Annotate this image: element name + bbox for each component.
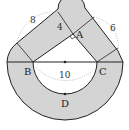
point-d-dot <box>64 93 67 96</box>
label-c: C <box>99 66 107 77</box>
length-bc: 10 <box>59 70 71 80</box>
label-d: D <box>61 98 69 109</box>
length-ac: 6 <box>110 23 116 33</box>
label-a: A <box>75 29 84 40</box>
midpoint-dot <box>64 61 67 64</box>
label-b: B <box>24 66 31 77</box>
length-band: 4 <box>57 22 63 32</box>
geometry-diagram: A B C D 8 6 10 4 <box>0 0 129 130</box>
length-ab: 8 <box>30 15 36 25</box>
